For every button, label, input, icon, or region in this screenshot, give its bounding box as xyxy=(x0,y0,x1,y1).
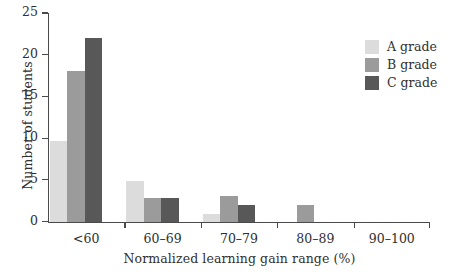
bar xyxy=(238,205,256,222)
legend-swatch-icon xyxy=(365,40,379,54)
legend-label: B grade xyxy=(387,59,437,72)
bar xyxy=(126,181,144,221)
x-tick-mark xyxy=(429,222,430,228)
x-tick-mark xyxy=(354,222,355,228)
bar xyxy=(297,205,315,222)
x-group-label: 60–69 xyxy=(124,231,200,246)
x-tick-mark xyxy=(201,222,202,228)
bar-group xyxy=(126,13,179,222)
y-tick-label: 20 xyxy=(0,48,38,61)
bar xyxy=(220,196,238,221)
x-group-label: 70–79 xyxy=(201,231,277,246)
legend-label: C grade xyxy=(387,77,437,90)
bar xyxy=(85,38,103,221)
x-group-label: 90–100 xyxy=(354,231,430,246)
legend-swatch-icon xyxy=(365,76,379,90)
legend-swatch-icon xyxy=(365,58,379,72)
y-tick-label: 10 xyxy=(0,131,38,144)
legend-item: B grade xyxy=(365,56,451,74)
x-group-label: 80–89 xyxy=(277,231,353,246)
bar-group xyxy=(50,13,103,222)
bar-group xyxy=(203,13,256,222)
legend-label: A grade xyxy=(387,41,437,54)
legend-item: C grade xyxy=(365,74,451,92)
bar xyxy=(203,214,221,222)
y-tick-label: 0 xyxy=(0,215,38,228)
y-tick-label: 5 xyxy=(0,173,38,186)
bar xyxy=(161,198,179,221)
x-group-label: <60 xyxy=(48,231,124,246)
x-axis-title: Normalized learning gain range (%) xyxy=(48,251,431,266)
y-tick-label: 25 xyxy=(0,6,38,19)
x-tick-mark xyxy=(277,222,278,228)
bar-group xyxy=(279,13,332,222)
bar-chart: Number of students Normalized learning g… xyxy=(0,0,451,275)
x-tick-mark xyxy=(124,222,125,228)
y-tick-label: 15 xyxy=(0,89,38,102)
x-axis-line xyxy=(48,222,430,223)
legend: A gradeB gradeC grade xyxy=(365,38,451,92)
bar xyxy=(67,71,85,221)
bar xyxy=(50,141,68,221)
legend-item: A grade xyxy=(365,38,451,56)
bar xyxy=(144,198,162,221)
